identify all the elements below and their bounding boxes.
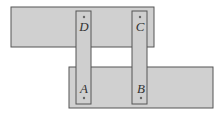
label-b: B — [137, 81, 145, 96]
point-d-dot — [83, 16, 85, 18]
point-a-dot — [83, 97, 85, 99]
label-a: A — [79, 81, 88, 96]
point-c-dot — [139, 16, 141, 18]
label-c: C — [136, 19, 145, 34]
diagram-canvas: D C A B — [0, 0, 223, 114]
point-b-dot — [140, 97, 142, 99]
label-d: D — [78, 19, 89, 34]
